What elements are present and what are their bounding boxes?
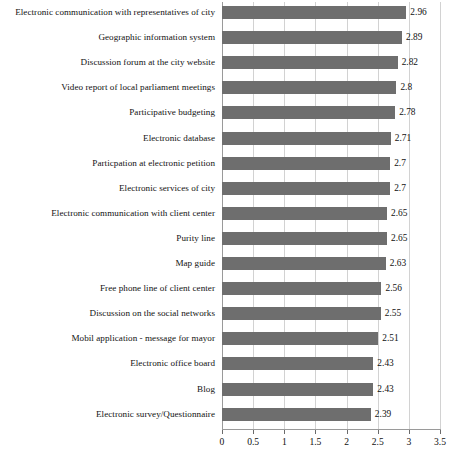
bar [222, 282, 381, 295]
bar [222, 257, 386, 270]
bar-value-label: 2.55 [385, 307, 401, 320]
x-tick-label: 2 [344, 436, 349, 448]
x-tick-mark [347, 430, 348, 434]
bar [222, 182, 390, 195]
x-tick-label: 1.5 [309, 436, 321, 448]
gridline-3.5 [440, 2, 441, 430]
x-tick-label: 0.5 [247, 436, 259, 448]
bar-value-label: 2.39 [375, 408, 391, 421]
bar [222, 6, 406, 19]
bar [222, 81, 396, 94]
category-label: Electronic survey/Questionnaire [3, 409, 215, 420]
bar-value-label: 2.89 [406, 31, 422, 44]
bar [222, 307, 381, 320]
category-label: Geographic information system [3, 32, 215, 43]
category-label-column: Electronic communication with representa… [0, 0, 219, 430]
bar [222, 106, 395, 119]
bar [222, 157, 390, 170]
bar-value-label: 2.96 [410, 6, 426, 19]
bar-value-label: 2.65 [391, 232, 407, 245]
category-label: Particpation at electronic petition [3, 158, 215, 169]
bar-value-label: 2.43 [377, 357, 393, 370]
x-tick-mark [378, 430, 379, 434]
bar [222, 232, 387, 245]
bar-value-label: 2.78 [399, 106, 415, 119]
category-label: Discussion forum at the city website [3, 57, 215, 68]
category-label: Discussion on the social networks [3, 308, 215, 319]
bar-value-label: 2.63 [390, 257, 406, 270]
category-label: Electronic communication with representa… [3, 7, 215, 18]
bar [222, 383, 373, 396]
bar-value-label: 2.43 [377, 383, 393, 396]
plot-area: 2.962.892.822.82.782.712.72.72.652.652.6… [222, 2, 440, 430]
x-tick-mark [253, 430, 254, 434]
bar [222, 56, 398, 69]
bar [222, 332, 378, 345]
category-label: Electronic services of city [3, 183, 215, 194]
bar [222, 357, 373, 370]
bar-value-label: 2.7 [394, 182, 406, 195]
bar [222, 408, 371, 421]
category-label: Mobil application - message for mayor [3, 333, 215, 344]
x-tick-mark [222, 430, 223, 434]
category-label: Map guide [3, 258, 215, 269]
category-label: Free phone line of client center [3, 283, 215, 294]
x-axis: 00.511.522.533.5 [222, 430, 441, 452]
bar-value-label: 2.65 [391, 207, 407, 220]
bar-value-label: 2.8 [400, 81, 412, 94]
bar-value-label: 2.82 [402, 56, 418, 69]
x-tick-mark [315, 430, 316, 434]
bar [222, 132, 391, 145]
category-label: Video report of local parliament meeting… [3, 82, 215, 93]
x-tick-mark [409, 430, 410, 434]
x-tick-mark [284, 430, 285, 434]
bar [222, 31, 402, 44]
category-label: Participative budgeting [3, 107, 215, 118]
x-tick-label: 2.5 [372, 436, 384, 448]
x-tick-label: 1 [282, 436, 287, 448]
bar-value-label: 2.56 [385, 282, 401, 295]
bar [222, 207, 387, 220]
bar-chart: Electronic communication with representa… [0, 0, 463, 464]
bar-value-label: 2.71 [395, 132, 411, 145]
x-tick-mark [440, 430, 441, 434]
bar-value-label: 2.7 [394, 157, 406, 170]
category-label: Electronic office board [3, 358, 215, 369]
category-label: Blog [3, 384, 215, 395]
x-tick-label: 3.5 [434, 436, 446, 448]
bar-value-label: 2.51 [382, 332, 398, 345]
category-label: Electronic communication with client cen… [3, 208, 215, 219]
x-tick-label: 0 [220, 436, 225, 448]
x-tick-label: 3 [406, 436, 411, 448]
category-label: Purity line [3, 233, 215, 244]
category-label: Electronic database [3, 133, 215, 144]
